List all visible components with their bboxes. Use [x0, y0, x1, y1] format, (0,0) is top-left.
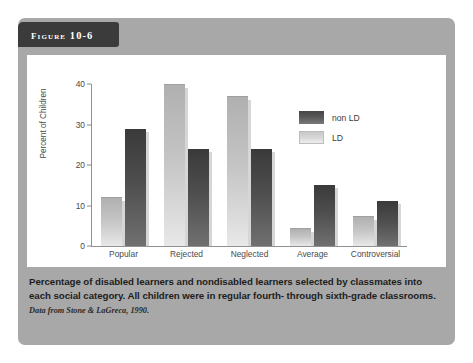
legend-swatch-dark-gray — [299, 111, 324, 124]
legend-entry-ld: LD — [299, 131, 360, 144]
y-tick-label-30: 30 — [65, 120, 85, 130]
y-axis-ticks: 010203040 — [65, 84, 91, 246]
bar-controversial-ld — [353, 216, 374, 246]
y-tick-label-10: 10 — [65, 201, 85, 211]
plot-area: Percent of Children 010203040 PopularRej… — [27, 55, 446, 267]
x-label-average: Average — [281, 249, 344, 259]
bar-rejected-ld — [164, 84, 185, 246]
chart-legend: non LDLD — [299, 111, 360, 151]
bar-neglected-ld — [227, 96, 248, 246]
bar-group-controversial — [344, 84, 407, 246]
x-axis-line — [91, 246, 407, 247]
legend-swatch-light-gray — [299, 131, 324, 144]
figure-source: Data from Stone & LaGreca, 1990. — [29, 306, 441, 315]
bar-group-rejected — [155, 84, 218, 246]
legend-entry-non-ld: non LD — [299, 111, 360, 124]
x-label-rejected: Rejected — [155, 249, 218, 259]
y-tick-label-40: 40 — [65, 79, 85, 89]
chart-plate: Percent of Children 010203040 PopularRej… — [27, 55, 446, 267]
legend-label: non LD — [332, 113, 360, 123]
bar-average-nonld — [314, 185, 335, 246]
bar-average-ld — [290, 228, 311, 246]
bar-popular-nonld — [125, 129, 146, 246]
figure-number-tab: Figure 10-6 — [18, 22, 119, 47]
x-label-neglected: Neglected — [218, 249, 281, 259]
figure-panel: Figure 10-6 Percent of Children 01020304… — [18, 18, 455, 345]
bar-rejected-nonld — [188, 149, 209, 246]
bar-controversial-nonld — [377, 201, 398, 246]
y-tick-label-0: 0 — [65, 241, 85, 251]
x-label-popular: Popular — [92, 249, 155, 259]
caption-block: Percentage of disabled learners and nond… — [29, 275, 441, 315]
bar-neglected-nonld — [251, 149, 272, 246]
bar-group-average — [281, 84, 344, 246]
figure-caption: Percentage of disabled learners and nond… — [29, 275, 441, 303]
y-tick-label-20: 20 — [65, 160, 85, 170]
bar-group-neglected — [218, 84, 281, 246]
x-label-controversial: Controversial — [344, 249, 407, 259]
bars-area — [92, 84, 407, 246]
figure-number-label: Figure 10-6 — [31, 27, 93, 43]
bar-group-popular — [92, 84, 155, 246]
legend-label: LD — [332, 133, 343, 143]
y-axis-title: Percent of Children — [39, 64, 48, 184]
bar-popular-ld — [101, 197, 122, 246]
x-axis-labels: PopularRejectedNeglectedAverageControver… — [92, 249, 407, 259]
